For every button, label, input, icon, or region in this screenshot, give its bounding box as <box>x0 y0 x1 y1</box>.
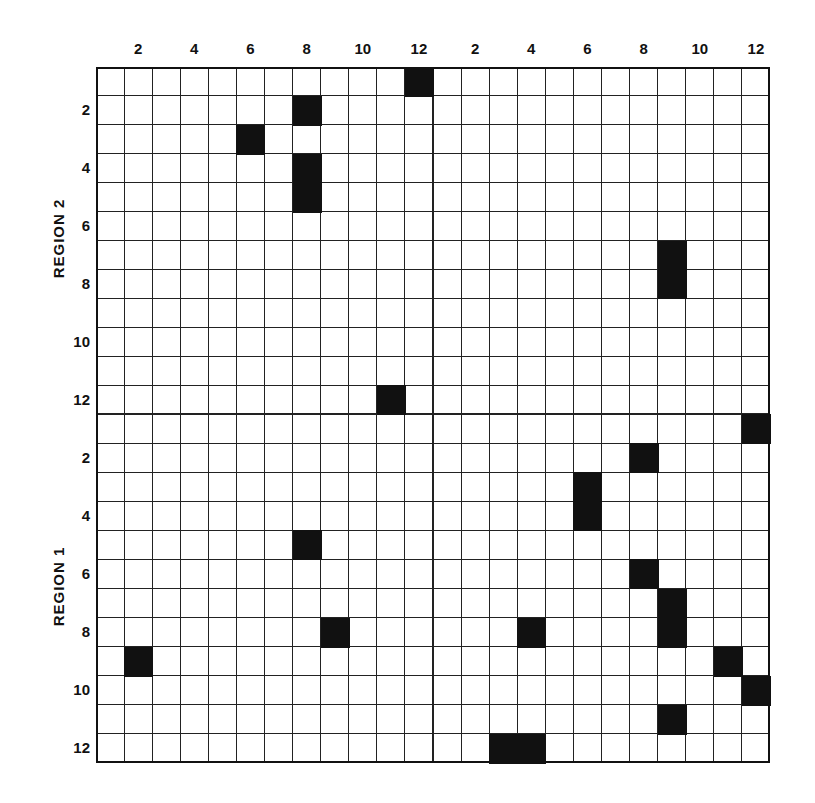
gridline-vertical <box>489 69 490 761</box>
right-x-tick-6: 6 <box>573 40 601 57</box>
region-1-label: REGION 1 <box>50 517 67 657</box>
gridline-vertical <box>601 69 602 761</box>
filled-cell <box>658 269 687 299</box>
region2-y-tick-10: 10 <box>58 333 90 350</box>
gridline-horizontal <box>98 327 768 328</box>
region-2-label: REGION 2 <box>50 169 67 309</box>
gridline-vertical <box>461 69 462 761</box>
filled-cell <box>573 501 602 531</box>
filled-cell <box>742 414 771 444</box>
gridline-vertical <box>657 69 658 761</box>
left-x-tick-4: 4 <box>180 40 208 57</box>
gridline-horizontal <box>98 385 768 386</box>
gridline-vertical <box>517 69 518 761</box>
filled-cell <box>489 734 518 764</box>
right-x-tick-2: 2 <box>461 40 489 57</box>
right-x-tick-12: 12 <box>742 40 770 57</box>
filled-cell <box>658 705 687 735</box>
gridline-horizontal <box>98 153 768 154</box>
gridline-vertical <box>573 69 574 761</box>
filled-cell <box>630 443 659 473</box>
left-x-tick-8: 8 <box>293 40 321 57</box>
region1-y-tick-10: 10 <box>58 681 90 698</box>
gridline-horizontal <box>98 559 768 560</box>
gridline-vertical <box>545 69 546 761</box>
filled-cell <box>517 734 546 764</box>
gridline-vertical <box>236 69 237 761</box>
filled-cell <box>377 385 406 415</box>
filled-cell <box>405 67 434 97</box>
region2-y-tick-2: 2 <box>58 101 90 118</box>
gridline-horizontal <box>98 675 768 676</box>
filled-cell <box>742 676 771 706</box>
gridline-vertical <box>376 69 377 761</box>
gridline-horizontal <box>98 356 768 357</box>
right-x-tick-8: 8 <box>630 40 658 57</box>
filled-cell <box>658 241 687 271</box>
filled-cell <box>236 125 265 155</box>
gridline-vertical <box>348 69 349 761</box>
occupancy-grid-figure: 2468101224681012 2468101224681012 REGION… <box>0 0 815 803</box>
filled-cell <box>573 472 602 502</box>
filled-cell <box>293 530 322 560</box>
region2-y-tick-12: 12 <box>58 391 90 408</box>
filled-cell <box>124 647 153 677</box>
gridline-vertical <box>629 69 630 761</box>
gridline-horizontal <box>98 211 768 212</box>
left-x-tick-2: 2 <box>124 40 152 57</box>
grid-area <box>96 67 770 763</box>
filled-cell <box>714 647 743 677</box>
gridline-vertical <box>180 69 181 761</box>
filled-cell <box>293 154 322 184</box>
left-x-tick-6: 6 <box>236 40 264 57</box>
gridline-horizontal <box>98 501 768 502</box>
quadrant-divider-horizontal <box>98 413 768 415</box>
right-x-tick-4: 4 <box>517 40 545 57</box>
filled-cell <box>630 559 659 589</box>
filled-cell <box>293 96 322 126</box>
gridline-vertical <box>208 69 209 761</box>
left-x-tick-12: 12 <box>405 40 433 57</box>
filled-cell <box>658 589 687 619</box>
gridline-vertical <box>685 69 686 761</box>
gridline-horizontal <box>98 124 768 125</box>
region1-y-tick-2: 2 <box>58 449 90 466</box>
gridline-vertical <box>264 69 265 761</box>
left-x-tick-10: 10 <box>349 40 377 57</box>
gridline-horizontal <box>98 443 768 444</box>
filled-cell <box>321 618 350 648</box>
gridline-horizontal <box>98 530 768 531</box>
filled-cell <box>517 618 546 648</box>
right-x-tick-10: 10 <box>686 40 714 57</box>
filled-cell <box>293 183 322 213</box>
gridline-horizontal <box>98 472 768 473</box>
region1-y-tick-12: 12 <box>58 739 90 756</box>
filled-cell <box>658 618 687 648</box>
quadrant-divider-vertical <box>432 69 434 761</box>
gridline-horizontal <box>98 182 768 183</box>
gridline-vertical <box>404 69 405 761</box>
